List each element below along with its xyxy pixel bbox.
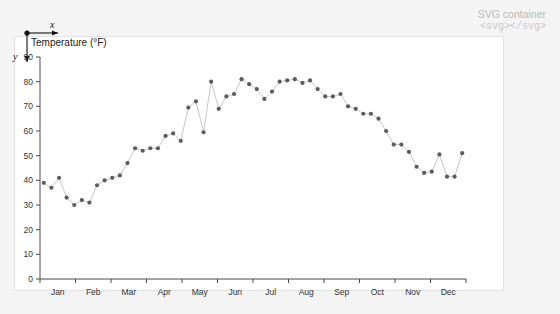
series-data-point xyxy=(87,200,91,204)
series-data-point xyxy=(392,142,396,146)
series-data-point xyxy=(452,175,456,179)
series-data-point xyxy=(361,112,365,116)
series-data-point xyxy=(141,149,145,153)
series-data-point xyxy=(376,117,380,121)
series-data-point xyxy=(354,107,358,111)
x-axis-tick-label: Nov xyxy=(405,287,421,297)
series-data-point xyxy=(255,87,259,91)
series-data-point xyxy=(278,80,282,84)
y-axis-tick-label: 0 xyxy=(28,274,33,284)
y-axis-tick-label: 70 xyxy=(24,101,34,111)
x-axis-tick-label: Mar xyxy=(121,287,136,297)
series-data-point xyxy=(209,80,213,84)
y-axis-tick-label: 60 xyxy=(24,126,34,136)
x-axis-tick-label: Aug xyxy=(299,287,314,297)
series-data-point xyxy=(80,198,84,202)
series-data-point xyxy=(95,183,99,187)
series-data-point xyxy=(338,92,342,96)
series-data-point xyxy=(103,178,107,182)
series-data-point xyxy=(346,104,350,108)
series-data-point xyxy=(57,176,61,180)
series-data-point xyxy=(232,92,236,96)
x-axis-direction-label: x xyxy=(49,19,55,30)
series-data-point xyxy=(285,78,289,82)
series-data-point xyxy=(331,94,335,98)
series-data-point xyxy=(293,77,297,81)
y-axis-tick-label: 20 xyxy=(24,225,34,235)
series-data-point xyxy=(179,139,183,143)
series-data-point xyxy=(422,171,426,175)
series-data-point xyxy=(186,105,190,109)
series-data-point xyxy=(369,112,373,116)
series-data-point xyxy=(316,87,320,91)
x-axis-tick-label: Apr xyxy=(158,287,171,297)
y-axis-tick-label: 30 xyxy=(24,200,34,210)
series-data-point xyxy=(399,142,403,146)
x-axis-tick-label: Jun xyxy=(228,287,242,297)
series-data-point xyxy=(323,94,327,98)
series-data-point xyxy=(125,161,129,165)
x-axis-tick-label: Dec xyxy=(441,287,457,297)
series-data-point xyxy=(171,131,175,135)
y-axis-tick-label: 40 xyxy=(24,175,34,185)
series-data-point xyxy=(270,89,274,93)
series-data-point xyxy=(163,134,167,138)
series-data-point xyxy=(445,175,449,179)
series-data-point xyxy=(156,146,160,150)
y-axis-tick-label: 90 xyxy=(24,52,34,62)
series-data-point xyxy=(414,165,418,169)
series-data-point xyxy=(407,150,411,154)
y-axis-tick-label: 80 xyxy=(24,77,34,87)
series-data-point xyxy=(65,196,69,200)
series-data-point xyxy=(194,99,198,103)
series-data-point xyxy=(133,146,137,150)
y-axis-direction-label: y xyxy=(12,51,18,62)
series-data-point xyxy=(42,181,46,185)
x-axis-tick-label: Jul xyxy=(265,287,276,297)
series-data-point xyxy=(72,203,76,207)
x-axis-tick-label: Jan xyxy=(51,287,65,297)
y-axis-tick-label: 10 xyxy=(24,249,34,259)
chart-y-axis-title: Temperature (°F) xyxy=(31,37,107,48)
series-data-point xyxy=(460,151,464,155)
series-data-point xyxy=(262,97,266,101)
series-data-point xyxy=(300,81,304,85)
series-data-point xyxy=(148,146,152,150)
x-axis-tick-label: May xyxy=(192,287,209,297)
temperature-chart: x y Temperature (°F) 0102030405060708090… xyxy=(0,0,560,314)
series-line xyxy=(44,79,462,205)
series-data-point xyxy=(437,152,441,156)
series-data-point xyxy=(239,77,243,81)
page-root: SVG container <svg></svg> x y Temperatur… xyxy=(0,0,560,314)
series-data-point xyxy=(217,107,221,111)
x-axis-tick-label: Oct xyxy=(371,287,385,297)
x-axis-tick-label: Feb xyxy=(86,287,101,297)
series-data-point xyxy=(308,78,312,82)
series-data-point xyxy=(201,130,205,134)
series-data-point xyxy=(224,94,228,98)
plot-area: 0102030405060708090JanFebMarAprMayJunJul… xyxy=(24,52,466,297)
series-data-point xyxy=(247,82,251,86)
series-data-point xyxy=(118,173,122,177)
series-data-point xyxy=(430,170,434,174)
series-data-point xyxy=(49,186,53,190)
series-data-point xyxy=(384,129,388,133)
y-axis-tick-label: 50 xyxy=(24,151,34,161)
x-axis-arrow-head xyxy=(52,30,58,35)
x-axis-tick-label: Sep xyxy=(334,287,349,297)
series-data-point xyxy=(110,176,114,180)
